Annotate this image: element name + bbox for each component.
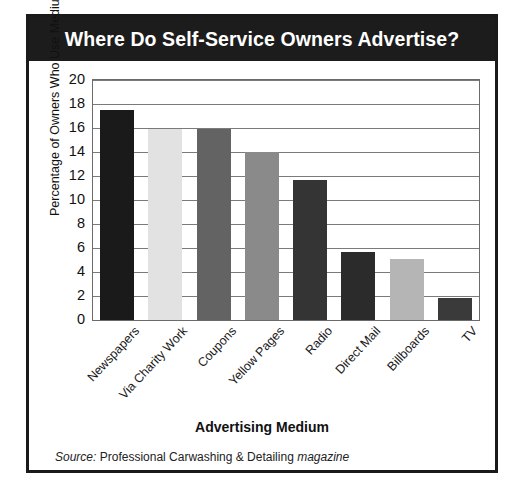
bar: [245, 152, 279, 320]
chart-figure: Where Do Self-Service Owners Advertise? …: [26, 14, 498, 473]
chart-title: Where Do Self-Service Owners Advertise?: [65, 28, 459, 51]
y-tick-label: 6: [77, 239, 85, 255]
source-note: Source: Professional Carwashing & Detail…: [55, 450, 349, 464]
y-tick-label: 20: [69, 71, 85, 87]
y-tick-label: 8: [77, 215, 85, 231]
y-axis-tick-labels: 02468101214161820: [47, 79, 85, 321]
y-tick-label: 18: [69, 95, 85, 111]
source-label: Source:: [55, 450, 96, 464]
plot-wrapper: Percentage of Owners Who Use Medium 0246…: [29, 61, 495, 476]
y-tick-label: 16: [69, 119, 85, 135]
bar: [341, 252, 375, 320]
bar: [293, 180, 327, 320]
bar: [438, 298, 472, 320]
bar: [100, 110, 134, 320]
y-tick-label: 10: [69, 191, 85, 207]
chart-title-bar: Where Do Self-Service Owners Advertise?: [29, 17, 495, 61]
bar: [197, 129, 231, 320]
bar-series: [93, 80, 479, 320]
plot-area: [92, 79, 480, 321]
y-tick-label: 0: [77, 311, 85, 327]
source-suffix: magazine: [297, 450, 349, 464]
y-tick-label: 2: [77, 287, 85, 303]
bar: [390, 259, 424, 320]
x-axis-tick-labels: NewspapersVia Charity WorkCouponsYellow …: [92, 324, 480, 424]
source-publication: Professional Carwashing & Detailing: [100, 450, 294, 464]
y-tick-label: 14: [69, 143, 85, 159]
y-tick-label: 4: [77, 263, 85, 279]
y-tick-label: 12: [69, 167, 85, 183]
bar: [148, 129, 182, 320]
x-axis-title: Advertising Medium: [29, 419, 495, 435]
